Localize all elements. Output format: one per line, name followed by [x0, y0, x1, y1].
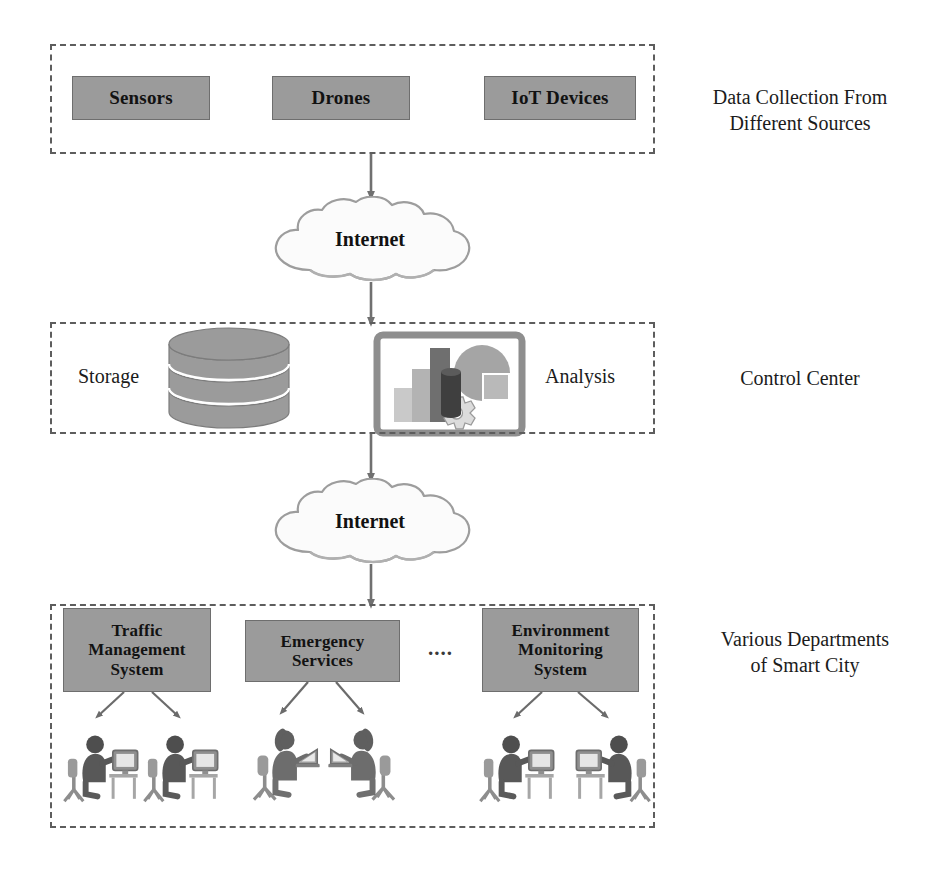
node-traffic-management-system[interactable]: Traffic Management System: [63, 608, 211, 692]
diagram-canvas: Sensors Drones IoT Devices Data Collecti…: [0, 0, 935, 875]
tier-label-departments: Various Departments of Smart City: [676, 626, 934, 679]
internet-cloud-bottom: Internet: [258, 478, 482, 570]
node-environment-monitoring-system[interactable]: Environment Monitoring System: [482, 608, 639, 692]
tier-label-control-center: Control Center: [676, 365, 924, 391]
node-label-storage: Storage: [78, 365, 139, 388]
internet-cloud-top: Internet: [258, 196, 482, 288]
node-emergency-services[interactable]: Emergency Services: [245, 620, 400, 682]
node-label-analysis: Analysis: [545, 365, 615, 388]
departments-ellipsis: ....: [428, 636, 453, 661]
internet-cloud-bottom-label: Internet: [258, 510, 482, 533]
internet-cloud-top-label: Internet: [258, 228, 482, 251]
node-iot-devices[interactable]: IoT Devices: [484, 76, 636, 120]
tier-label-data-sources: Data Collection From Different Sources: [676, 84, 924, 137]
node-sensors[interactable]: Sensors: [72, 76, 210, 120]
node-drones[interactable]: Drones: [272, 76, 410, 120]
